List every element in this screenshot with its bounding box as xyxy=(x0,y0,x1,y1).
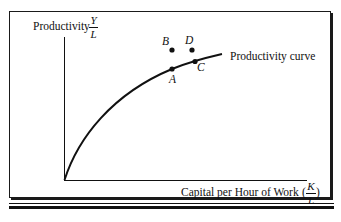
x-axis-label: Capital per Hour of Work xyxy=(181,187,299,199)
x-fraction-denominator: L xyxy=(308,194,314,206)
point-d xyxy=(189,47,194,52)
y-axis-label: Productivity xyxy=(33,21,90,33)
point-label-b: B xyxy=(162,36,169,48)
y-axis-fraction: Y L xyxy=(89,15,98,40)
x-fraction-numerator: K xyxy=(307,180,314,192)
x-axis-fraction: K L xyxy=(306,181,316,206)
point-label-a: A xyxy=(169,74,176,86)
x-axis-close-paren: ) xyxy=(316,187,320,199)
y-fraction-numerator: Y xyxy=(90,14,96,26)
point-label-d: D xyxy=(185,35,193,47)
y-fraction-denominator: L xyxy=(90,28,96,40)
point-a xyxy=(169,66,174,71)
point-b xyxy=(169,47,174,52)
curve-label: Productivity curve xyxy=(230,51,315,63)
point-label-c: C xyxy=(197,62,205,74)
